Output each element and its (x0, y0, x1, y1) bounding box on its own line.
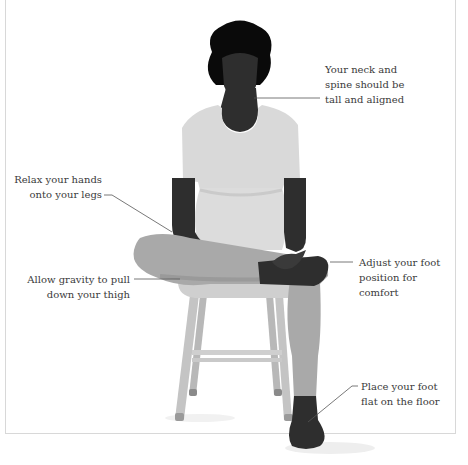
annotation-hands: Relax your hands onto your legs (14, 172, 102, 202)
annotation-line: flat on the floor (361, 394, 440, 409)
annotation-line: Allow gravity to pull (27, 272, 130, 287)
annotation-line: position for (359, 270, 440, 285)
annotation-thigh: Allow gravity to pull down your thigh (27, 272, 130, 302)
stool (175, 282, 300, 421)
annotation-line: spine should be (325, 77, 404, 92)
annotation-line: onto your legs (14, 187, 102, 202)
annotation-line: down your thigh (27, 287, 130, 302)
standing-leg (287, 280, 320, 398)
lower-torso (195, 188, 287, 250)
annotation-line: Your neck and (325, 62, 404, 77)
annotation-line: Place your foot (361, 379, 440, 394)
annotation-line: Relax your hands (14, 172, 102, 187)
annotation-foot-floor: Place your foot flat on the floor (361, 379, 440, 409)
neck (220, 88, 258, 132)
annotation-line: tall and aligned (325, 92, 404, 107)
right-arm (284, 178, 306, 252)
annotation-neck-spine: Your neck and spine should be tall and a… (325, 62, 404, 107)
annotation-line: comfort (359, 285, 440, 300)
leader-hands-diag (112, 195, 172, 232)
annotation-foot-adjust: Adjust your foot position for comfort (359, 255, 440, 300)
standing-foot (289, 396, 325, 449)
annotation-line: Adjust your foot (359, 255, 440, 270)
